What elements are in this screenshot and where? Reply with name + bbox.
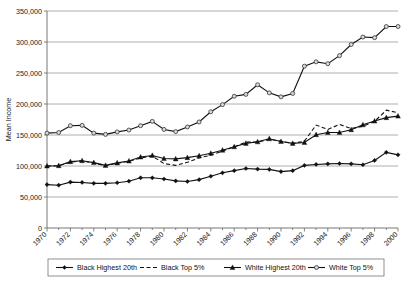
data-point-marker bbox=[291, 169, 295, 173]
data-point-marker bbox=[326, 62, 330, 66]
income-line-chart: 350,000300,000250,000200,000150,000100,0… bbox=[0, 0, 407, 283]
data-point-marker bbox=[361, 35, 365, 39]
x-tick-label: 1982 bbox=[171, 230, 189, 248]
x-tick-label: 1974 bbox=[78, 230, 96, 248]
y-axis-title: Mean Income bbox=[4, 98, 13, 142]
data-point-marker bbox=[256, 83, 260, 87]
data-point-marker bbox=[57, 131, 61, 135]
series-line-path bbox=[47, 110, 398, 166]
data-point-marker bbox=[174, 179, 178, 183]
data-point-marker bbox=[68, 180, 72, 184]
x-tick-label: 1972 bbox=[54, 230, 72, 248]
data-point-marker bbox=[396, 25, 400, 29]
data-point-marker bbox=[92, 131, 96, 135]
x-axis-tick-labels: 1970197219741976197819801982198419861988… bbox=[31, 228, 400, 248]
data-point-marker bbox=[174, 130, 178, 134]
x-tick-label: 1984 bbox=[195, 230, 213, 248]
data-point-marker bbox=[197, 120, 201, 124]
data-point-marker bbox=[256, 167, 260, 171]
x-tick-label: 1988 bbox=[241, 230, 259, 248]
y-axis-title-label: Mean Income bbox=[4, 98, 13, 142]
data-point-marker bbox=[185, 125, 189, 129]
x-tick-label: 1994 bbox=[312, 230, 330, 248]
data-point-marker bbox=[244, 92, 248, 96]
data-point-marker bbox=[115, 130, 119, 134]
data-point-marker bbox=[373, 36, 377, 40]
data-point-marker bbox=[127, 128, 131, 132]
y-tick-label: 150,000 bbox=[16, 131, 42, 140]
series-black-highest-20th bbox=[45, 150, 400, 187]
data-point-marker bbox=[326, 162, 330, 166]
y-tick-label: 100,000 bbox=[16, 162, 42, 171]
data-point-marker bbox=[80, 123, 84, 127]
x-tick-label: 1976 bbox=[101, 230, 119, 248]
y-tick-label: 300,000 bbox=[16, 38, 42, 47]
data-point-marker bbox=[209, 110, 213, 114]
data-point-marker bbox=[209, 174, 213, 178]
data-point-marker bbox=[267, 167, 271, 171]
data-point-marker bbox=[302, 163, 306, 167]
data-point-marker bbox=[80, 180, 84, 184]
data-point-marker bbox=[314, 60, 318, 64]
x-tick-label: 1996 bbox=[335, 230, 353, 248]
chart-legend[interactable]: Black Highest 20thBlack Top 5%White High… bbox=[48, 259, 384, 276]
x-tick-label: 2000 bbox=[382, 230, 400, 248]
series-line-path bbox=[47, 116, 398, 166]
data-point-marker bbox=[267, 91, 271, 95]
x-tick-label: 1992 bbox=[288, 230, 306, 248]
data-point-marker bbox=[384, 25, 388, 29]
x-tick-label: 1978 bbox=[124, 230, 142, 248]
data-point-marker bbox=[139, 124, 143, 128]
data-point-marker bbox=[162, 127, 166, 131]
legend-item-label: Black Highest 20th bbox=[77, 263, 137, 272]
data-point-marker bbox=[291, 91, 295, 95]
data-point-marker bbox=[45, 131, 49, 135]
data-point-marker bbox=[185, 179, 189, 183]
legend-marker bbox=[315, 266, 319, 270]
legend-item-label: Black Top 5% bbox=[161, 263, 205, 272]
data-point-marker bbox=[127, 179, 131, 183]
data-point-marker bbox=[68, 124, 72, 128]
data-point-marker bbox=[349, 162, 353, 166]
y-axis-tick-labels: 350,000300,000250,000200,000150,000100,0… bbox=[16, 7, 47, 233]
data-point-marker bbox=[337, 161, 341, 165]
y-tick-label: 350,000 bbox=[16, 7, 42, 16]
x-tick-label: 1998 bbox=[358, 230, 376, 248]
data-point-marker bbox=[139, 176, 143, 180]
legend-item-label: White Top 5% bbox=[329, 263, 374, 272]
series-line-path bbox=[47, 152, 398, 185]
x-tick-label: 1990 bbox=[265, 230, 283, 248]
data-point-marker bbox=[244, 166, 248, 170]
y-tick-label: 50,000 bbox=[20, 193, 42, 202]
series-black-top-5 bbox=[47, 110, 398, 166]
data-point-marker bbox=[232, 169, 236, 173]
chart-axes bbox=[47, 11, 398, 228]
data-point-marker bbox=[162, 177, 166, 181]
data-point-marker bbox=[197, 178, 201, 182]
data-point-marker bbox=[338, 54, 342, 58]
data-point-marker bbox=[103, 181, 107, 185]
data-point-marker bbox=[396, 153, 400, 157]
data-point-marker bbox=[279, 95, 283, 99]
data-point-marker bbox=[45, 183, 49, 187]
chart-container: 350,000300,000250,000200,000150,000100,0… bbox=[0, 0, 407, 283]
x-tick-label: 1970 bbox=[31, 230, 49, 248]
data-point-marker bbox=[104, 132, 108, 136]
data-point-marker bbox=[57, 183, 61, 187]
series-white-top-5 bbox=[45, 25, 400, 137]
x-tick-label: 1980 bbox=[148, 230, 166, 248]
data-point-marker bbox=[267, 136, 272, 141]
y-tick-label: 250,000 bbox=[16, 69, 42, 78]
x-tick-label: 1986 bbox=[218, 230, 236, 248]
data-point-marker bbox=[150, 176, 154, 180]
data-point-marker bbox=[220, 171, 224, 175]
data-series bbox=[45, 25, 401, 188]
data-point-marker bbox=[221, 103, 225, 107]
y-tick-label: 200,000 bbox=[16, 100, 42, 109]
data-point-marker bbox=[92, 181, 96, 185]
data-point-marker bbox=[232, 94, 236, 98]
series-line-path bbox=[47, 27, 398, 135]
data-point-marker bbox=[349, 42, 353, 46]
data-point-marker bbox=[115, 181, 119, 185]
legend-item-label: White Highest 20th bbox=[245, 263, 306, 272]
